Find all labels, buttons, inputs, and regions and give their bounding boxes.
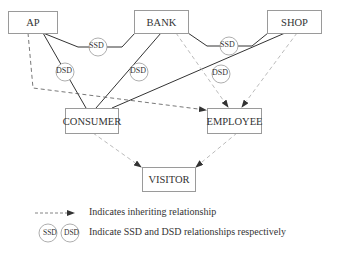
ssd-label-ap-bank: SSD (89, 41, 104, 50)
node-visitor-label: VISITOR (148, 174, 189, 185)
legend-ssd-label: SSD (43, 228, 57, 237)
node-bank-label: BANK (147, 17, 177, 28)
ssd-label-bank-shop: SSD (220, 40, 235, 49)
node-shop-label: SHOP (281, 17, 308, 28)
node-ap-label: AP (26, 17, 39, 28)
node-ap: AP (8, 11, 58, 34)
inherit-edge-consumer-visitor (93, 133, 141, 167)
node-shop: SHOP (267, 10, 322, 34)
node-visitor: VISITOR (142, 167, 196, 192)
legend-dsd-label: DSD (64, 228, 79, 237)
node-employee-label: EMPLOYEE (207, 116, 263, 127)
legend-inherit-text: Indicates inheriting relationship (89, 206, 216, 217)
dsd-label-shop-consumer: DSD (212, 68, 228, 77)
node-consumer-label: CONSUMER (63, 116, 121, 127)
node-bank: BANK (134, 10, 189, 34)
inherit-edge-shop-employee (242, 33, 297, 107)
node-consumer: CONSUMER (65, 108, 119, 134)
node-employee: EMPLOYEE (207, 108, 262, 134)
inherit-edge-ap-employee (28, 33, 206, 110)
inherit-edge-employee-visitor (196, 133, 237, 167)
dsd-label-bank-consumer: DSD (130, 66, 146, 75)
legend-constraint-text: Indicate SSD and DSD relationships respe… (89, 226, 286, 237)
dsd-label-ap-consumer: DSD (56, 66, 72, 75)
